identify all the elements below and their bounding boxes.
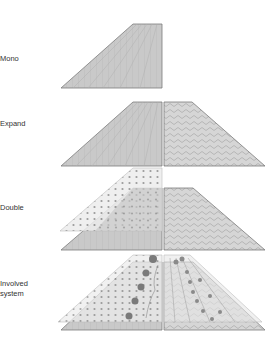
mono-layer [61, 24, 162, 88]
double-layer [60, 168, 265, 250]
layer-diagram [0, 0, 280, 346]
expand-layer [61, 102, 265, 166]
involved-system-layer [58, 255, 265, 330]
